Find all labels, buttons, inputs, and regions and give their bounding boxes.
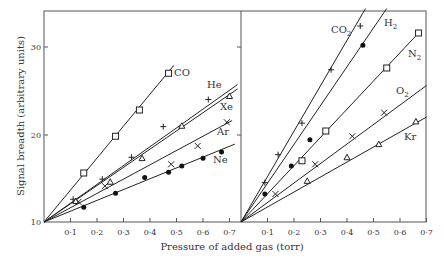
- x-tick-label: 0·7: [420, 228, 433, 237]
- label-ne: Ne: [213, 154, 228, 165]
- square-open-marker-icon: [416, 30, 422, 36]
- fit-line: [44, 121, 232, 223]
- square-open-marker-icon: [323, 128, 329, 134]
- x-tick-label: 0·6: [197, 228, 210, 237]
- square-open-marker-icon: [384, 65, 390, 71]
- triangle-open-marker-icon: [376, 141, 382, 147]
- series-ar: [44, 119, 232, 222]
- label-co: CO: [174, 67, 190, 78]
- label-n2: N2: [408, 48, 421, 62]
- filled-circle-marker-icon: [142, 175, 147, 180]
- fit-line: [241, 9, 366, 223]
- cross-marker-icon: [312, 161, 318, 167]
- square-open-marker-icon: [81, 170, 87, 176]
- fit-line: [241, 9, 387, 223]
- x-tick-label: 0·4: [341, 228, 354, 237]
- filled-circle-marker-icon: [113, 191, 118, 196]
- y-axis-title: Signal breadth (arbitrary units): [15, 36, 26, 196]
- x-tick-label: 0·3: [314, 228, 327, 237]
- series-kr: [241, 117, 427, 222]
- cross-marker-icon: [168, 161, 174, 167]
- series-o2: [241, 86, 427, 223]
- filled-circle-marker-icon: [262, 192, 267, 197]
- square-open-marker-icon: [136, 107, 142, 113]
- triangle-open-marker-icon: [344, 154, 350, 160]
- y-tick-10: 10: [31, 218, 41, 227]
- series-n2: [241, 30, 422, 222]
- label-ar: Ar: [216, 126, 229, 137]
- cross-marker-icon: [381, 110, 387, 116]
- label-he: He: [207, 79, 222, 90]
- square-open-marker-icon: [113, 133, 119, 139]
- x-tick-label: 0·6: [394, 228, 407, 237]
- triangle-open-marker-icon: [304, 178, 310, 184]
- x-tick-label: 0·2: [288, 228, 301, 237]
- filled-circle-marker-icon: [81, 205, 86, 210]
- filled-circle-marker-icon: [166, 170, 171, 175]
- filled-circle-marker-icon: [201, 156, 206, 161]
- label-kr: Kr: [404, 131, 416, 142]
- series-labels: CO He Xe Ar Ne CO2 H2 N2 O2 Kr: [174, 17, 421, 165]
- plus-marker-icon: [205, 97, 211, 103]
- plus-marker-icon: [128, 154, 134, 160]
- plus-marker-icon: [160, 124, 166, 130]
- label-co2: CO2: [331, 24, 351, 38]
- triangle-open-marker-icon: [413, 118, 419, 124]
- plus-marker-icon: [275, 152, 281, 158]
- cross-marker-icon: [102, 183, 108, 189]
- plus-marker-icon: [357, 23, 363, 29]
- fit-line: [241, 33, 419, 222]
- x-tick-label: 0·1: [64, 228, 77, 237]
- series-layer: [44, 9, 427, 223]
- y-axis: 30 20 10 Signal breadth (arbitrary units…: [15, 36, 241, 227]
- x-axis-title: Pressure of added gas (torr): [160, 241, 303, 252]
- chart: 30 20 10 Signal breadth (arbitrary units…: [0, 0, 444, 261]
- x-tick-label: 0·5: [367, 228, 380, 237]
- x-tick-label: 0·3: [117, 228, 130, 237]
- x-axis: 0·10·20·30·40·50·60·70·10·20·30·40·50·60…: [64, 218, 433, 237]
- filled-circle-marker-icon: [179, 164, 184, 169]
- y-tick-20: 20: [31, 131, 41, 140]
- fit-line: [241, 86, 427, 223]
- label-h2: H2: [384, 17, 397, 31]
- x-tick-label: 0·4: [144, 228, 157, 237]
- series-co2: [241, 9, 366, 223]
- filled-circle-marker-icon: [307, 137, 312, 142]
- square-open-marker-icon: [166, 70, 172, 76]
- square-open-marker-icon: [299, 158, 305, 164]
- x-tick-label: 0·1: [261, 228, 274, 237]
- x-tick-label: 0·2: [91, 228, 104, 237]
- filled-circle-marker-icon: [360, 43, 365, 48]
- y-tick-30: 30: [31, 43, 41, 52]
- series-h2: [241, 9, 387, 223]
- cross-marker-icon: [195, 143, 201, 149]
- label-o2: O2: [396, 85, 409, 99]
- x-tick-label: 0·5: [170, 228, 183, 237]
- label-xe: Xe: [220, 101, 233, 112]
- plus-marker-icon: [99, 176, 105, 182]
- x-tick-label: 0·7: [223, 228, 236, 237]
- plot-frame: [44, 11, 426, 222]
- cross-marker-icon: [349, 133, 355, 139]
- fit-line: [241, 117, 427, 222]
